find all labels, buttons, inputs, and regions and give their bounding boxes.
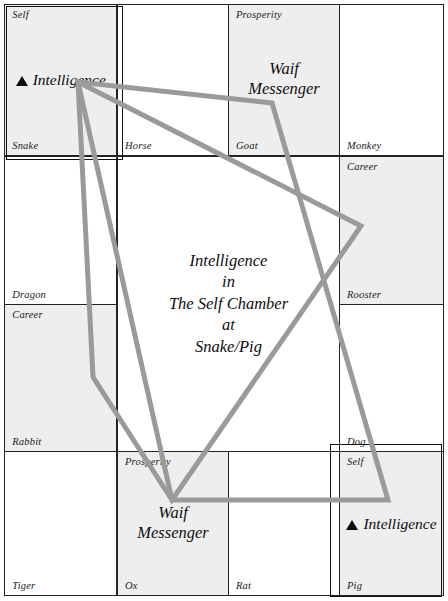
- palace-cell-monkey[interactable]: Monkey: [339, 4, 444, 156]
- branch-label-rat: Rat: [236, 580, 251, 591]
- centre-line-1: in: [118, 272, 339, 293]
- star-block-ox: Waif Messenger: [118, 503, 228, 543]
- triangle-up-icon: [346, 520, 358, 530]
- palace-cell-rabbit[interactable]: Career Rabbit: [4, 304, 117, 452]
- marker-star-name-pig: Intelligence: [363, 515, 436, 533]
- palace-cell-snake[interactable]: Self Intelligence Snake: [4, 4, 117, 156]
- palace-cell-dog[interactable]: Dog: [339, 304, 444, 452]
- star-marker-row-pig: Intelligence: [340, 515, 443, 533]
- palace-cell-horse[interactable]: Horse: [117, 4, 229, 156]
- centre-line-0: Intelligence: [118, 250, 339, 271]
- star-name-goat-0: Waif: [233, 59, 335, 79]
- chamber-label-pig: Self: [347, 456, 364, 467]
- palace-cell-ox[interactable]: Prosperity Waif Messenger Ox: [117, 451, 229, 596]
- star-name-ox-0: Waif: [122, 503, 224, 523]
- star-name-ox-1: Messenger: [122, 523, 224, 543]
- branch-label-snake: Snake: [12, 140, 38, 151]
- centre-palace-text: Intelligence in The Self Chamber at Snak…: [118, 250, 339, 357]
- bazi-chart-frame: Self Intelligence Snake Horse Prosperity…: [4, 4, 442, 595]
- branch-label-dragon: Dragon: [12, 289, 46, 300]
- centre-line-2: The Self Chamber: [118, 293, 339, 314]
- triangle-up-icon: [16, 76, 28, 86]
- branch-label-goat: Goat: [236, 140, 258, 151]
- chamber-label-ox: Prosperity: [125, 456, 171, 467]
- star-marker-row-snake: Intelligence: [5, 71, 116, 89]
- marker-star-name-snake: Intelligence: [33, 71, 106, 89]
- palace-cell-dragon[interactable]: Dragon: [4, 156, 117, 305]
- centre-line-4: Snake/Pig: [118, 336, 339, 357]
- palace-cell-pig[interactable]: Self Intelligence Pig: [339, 451, 444, 596]
- palace-cell-goat[interactable]: Prosperity Waif Messenger Goat: [228, 4, 340, 156]
- star-name-goat-1: Messenger: [233, 79, 335, 99]
- chamber-label-rooster: Career: [347, 161, 378, 172]
- palace-cell-rooster[interactable]: Career Rooster: [339, 156, 444, 305]
- branch-label-tiger: Tiger: [12, 580, 35, 591]
- chamber-label-rabbit: Career: [12, 309, 43, 320]
- centre-palace: Intelligence in The Self Chamber at Snak…: [117, 156, 340, 452]
- branch-label-rabbit: Rabbit: [12, 436, 41, 447]
- branch-label-rooster: Rooster: [347, 289, 381, 300]
- star-block-goat: Waif Messenger: [229, 59, 339, 99]
- palace-cell-rat[interactable]: Rat: [228, 451, 340, 596]
- centre-line-3: at: [118, 315, 339, 336]
- branch-label-pig: Pig: [347, 580, 362, 591]
- chamber-label-goat: Prosperity: [236, 9, 282, 20]
- branch-label-horse: Horse: [125, 140, 152, 151]
- branch-label-ox: Ox: [125, 580, 138, 591]
- branch-label-monkey: Monkey: [347, 140, 381, 151]
- chamber-label-snake: Self: [12, 9, 29, 20]
- branch-label-dog: Dog: [347, 436, 366, 447]
- palace-cell-tiger[interactable]: Tiger: [4, 451, 117, 596]
